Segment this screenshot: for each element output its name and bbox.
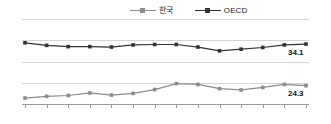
data-point-OECD-2012 (283, 43, 287, 47)
legend-marker-oecd (205, 8, 210, 13)
data-point-한국-2007 (175, 82, 179, 86)
x-tick-2004 (111, 105, 112, 108)
data-point-OECD-2013 (304, 42, 308, 46)
data-point-한국-2006 (153, 88, 157, 92)
data-point-한국-2001 (45, 95, 49, 99)
data-point-OECD-2007 (175, 43, 179, 47)
gridline-20 (22, 104, 309, 105)
data-point-한국-2010 (239, 88, 243, 92)
legend-label-korea: 한국 (159, 6, 173, 16)
line-chart: 한국 OECD 2025303540 200020012002200320042… (0, 0, 331, 124)
data-point-OECD-2005 (131, 43, 135, 47)
x-tick-2007 (176, 105, 177, 108)
data-point-한국-2011 (261, 86, 265, 90)
data-point-한국-2003 (88, 91, 92, 95)
plot-area: 2025303540 20002001200220032004200520062… (22, 19, 309, 104)
legend-marker-korea (140, 8, 145, 13)
data-point-OECD-2004 (110, 45, 114, 49)
x-tick-2005 (133, 105, 134, 108)
data-point-OECD-2003 (88, 45, 92, 49)
data-point-한국-2008 (196, 83, 200, 87)
oecd-end-value-label: 34.1 (288, 48, 304, 57)
data-point-OECD-2002 (66, 45, 70, 49)
data-point-OECD-2006 (153, 43, 157, 47)
data-point-한국-2009 (218, 87, 222, 91)
data-point-OECD-2009 (218, 49, 222, 53)
x-tick-2001 (47, 105, 48, 108)
data-point-OECD-2001 (45, 44, 49, 48)
data-point-OECD-2008 (196, 45, 200, 49)
x-tick-2013 (306, 105, 307, 108)
x-tick-2003 (90, 105, 91, 108)
data-point-한국-2005 (131, 92, 135, 96)
data-point-한국-2000 (23, 96, 27, 100)
x-tick-2002 (68, 105, 69, 108)
x-tick-2000 (25, 105, 26, 108)
chart-legend: 한국 OECD (0, 3, 331, 18)
x-tick-2012 (284, 105, 285, 108)
x-tick-2011 (263, 105, 264, 108)
legend-item-oecd: OECD (195, 5, 248, 17)
data-point-OECD-2010 (239, 47, 243, 51)
x-tick-2008 (198, 105, 199, 108)
legend-swatch-korea (130, 6, 156, 15)
data-point-한국-2004 (110, 93, 114, 97)
legend-label-oecd: OECD (224, 6, 248, 16)
data-point-한국-2012 (283, 83, 287, 87)
data-point-OECD-2000 (23, 41, 27, 45)
data-point-한국-2013 (304, 84, 308, 88)
data-point-OECD-2011 (261, 46, 265, 50)
korea-end-value-label: 24.3 (288, 89, 304, 98)
x-tick-2009 (220, 105, 221, 108)
data-point-한국-2002 (66, 94, 70, 98)
x-tick-2010 (241, 105, 242, 108)
series-paths (22, 19, 309, 104)
x-tick-2006 (155, 105, 156, 108)
legend-swatch-oecd (195, 6, 221, 15)
legend-item-korea: 한국 (130, 5, 173, 17)
